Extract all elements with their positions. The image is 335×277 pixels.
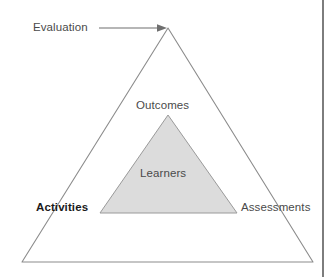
label-activities: Activities (36, 202, 88, 214)
figure-container: Evaluation Outcomes Learners Activities … (0, 0, 335, 277)
evaluation-arrow-head (157, 24, 167, 32)
label-evaluation: Evaluation (33, 22, 88, 34)
label-learners: Learners (140, 168, 186, 180)
triangle-diagram (0, 0, 335, 277)
inner-triangle (100, 115, 237, 213)
label-assessments: Assessments (241, 202, 310, 214)
page-edge-line (322, 0, 324, 277)
label-outcomes: Outcomes (136, 100, 189, 112)
